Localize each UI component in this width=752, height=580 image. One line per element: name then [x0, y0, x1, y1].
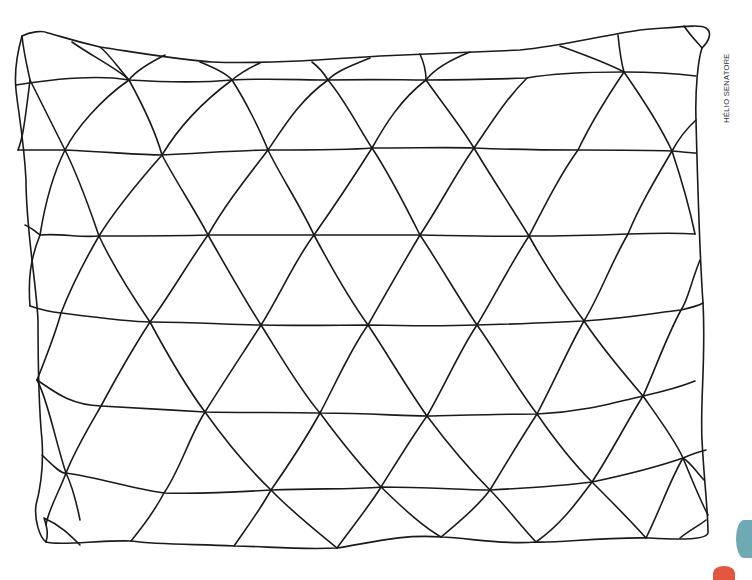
pattern-line [40, 47, 129, 235]
pattern-line [420, 54, 708, 515]
pattern-line [646, 458, 704, 538]
pattern-line [129, 55, 165, 80]
pattern-line [618, 35, 624, 72]
pattern-line [18, 80, 40, 306]
pattern-line [684, 26, 702, 48]
triangle-pattern-lines [15, 26, 709, 549]
pattern-line [46, 58, 370, 525]
pattern-line [337, 72, 624, 548]
pattern-line [131, 52, 470, 541]
pattern-line [42, 450, 706, 493]
pattern-line [18, 148, 696, 155]
pillow-outline [15, 26, 709, 548]
pattern-line [37, 380, 695, 416]
coral-decoration [713, 566, 735, 580]
teal-decoration [736, 520, 752, 558]
pattern-line [37, 63, 260, 380]
pattern-line [16, 72, 696, 85]
pattern-line [25, 225, 695, 236]
pattern-line [44, 518, 80, 545]
pattern-line [680, 520, 706, 538]
pattern-line [72, 42, 441, 537]
artist-credit: HÉLIO SENATORE [722, 53, 731, 122]
pattern-line [536, 260, 700, 542]
